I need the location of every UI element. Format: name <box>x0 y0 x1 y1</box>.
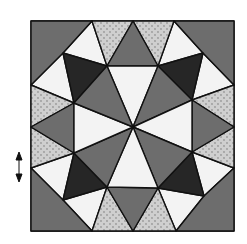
quilt-block-diagram <box>0 0 247 244</box>
double-arrow-icon <box>16 152 22 182</box>
